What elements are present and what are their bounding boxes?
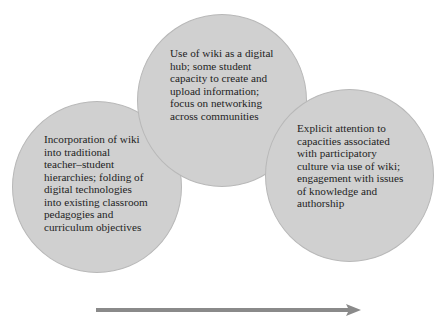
progression-arrow-icon [96,303,361,317]
circle-stage-3: Explicit attention to capacities associa… [265,89,434,262]
circle-stage-3-text: Explicit attention to capacities associa… [297,122,403,210]
circle-stage-1-text: Incorporation of wiki into traditional t… [44,133,148,233]
circle-stage-2-text: Use of wiki as a digital hub; some stude… [170,47,273,122]
